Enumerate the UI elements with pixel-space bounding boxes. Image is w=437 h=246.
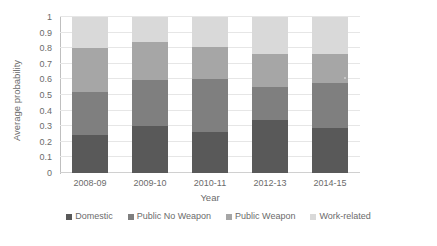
legend-swatch-icon: [310, 214, 316, 220]
y-axis-tick-label: 0: [47, 169, 52, 178]
bar-stack[interactable]: [132, 17, 168, 173]
legend-item[interactable]: Work-related: [310, 212, 370, 221]
bar-segment[interactable]: [72, 92, 108, 135]
x-axis-title: Year: [60, 192, 360, 203]
legend-swatch-icon: [66, 214, 72, 220]
bar-stack[interactable]: [192, 17, 228, 173]
y-axis-tick-label: 0.1: [39, 153, 52, 162]
y-axis-tick-label: 0.7: [39, 59, 52, 68]
legend-swatch-icon: [226, 214, 232, 220]
y-axis-tick-label: 0.5: [39, 91, 52, 100]
bar-segment[interactable]: [132, 42, 168, 80]
bar-segment[interactable]: [312, 17, 348, 54]
bar-segment[interactable]: [132, 126, 168, 173]
bar-segment[interactable]: [312, 54, 348, 83]
bar-segment[interactable]: [72, 48, 108, 92]
bar-segment[interactable]: [252, 17, 288, 54]
y-axis-tick-label: 1: [47, 13, 52, 22]
legend-item[interactable]: Public No Weapon: [128, 212, 211, 221]
bar-segment[interactable]: [72, 135, 108, 173]
x-axis-tick-label: 2014-15: [313, 178, 346, 188]
bar-stack[interactable]: [72, 17, 108, 173]
y-axis-tick-labels: 00.10.20.30.40.50.60.70.80.91: [0, 17, 56, 173]
bar-segment[interactable]: [192, 47, 228, 80]
x-axis-tick-labels: 2008-092009-102010-112012-132014-15: [60, 178, 360, 192]
chart-legend: DomesticPublic No WeaponPublic WeaponWor…: [0, 212, 437, 221]
bar-stack[interactable]: [252, 17, 288, 173]
y-axis-tick-label: 0.3: [39, 122, 52, 131]
y-axis-tick-label: 0.8: [39, 44, 52, 53]
x-axis-tick-label: 2009-10: [133, 178, 166, 188]
y-axis-tick-label: 0.6: [39, 75, 52, 84]
legend-label: Work-related: [319, 212, 370, 221]
bar-segment[interactable]: [192, 17, 228, 47]
legend-label: Domestic: [75, 212, 113, 221]
legend-label: Public No Weapon: [137, 212, 211, 221]
y-axis-tick-label: 0.4: [39, 106, 52, 115]
bar-segment[interactable]: [252, 87, 288, 120]
bar-segment[interactable]: [72, 17, 108, 48]
legend-swatch-icon: [128, 214, 134, 220]
plot-area: [60, 17, 360, 173]
stacked-bar-chart: Average probability 00.10.20.30.40.50.60…: [0, 0, 437, 246]
bar-segment[interactable]: [132, 80, 168, 126]
y-axis-tick-label: 0.2: [39, 137, 52, 146]
y-axis-tick-label: 0.9: [39, 28, 52, 37]
bar-segment[interactable]: [252, 120, 288, 173]
bar-stack[interactable]: [312, 17, 348, 173]
bar-segment[interactable]: [312, 128, 348, 173]
x-axis-tick-label: 2012-13: [253, 178, 286, 188]
bar-segment[interactable]: [312, 83, 348, 127]
bar-segment[interactable]: [192, 79, 228, 131]
legend-item[interactable]: Domestic: [66, 212, 113, 221]
bar-segment[interactable]: [192, 132, 228, 173]
legend-label: Public Weapon: [235, 212, 295, 221]
bar-segment[interactable]: [252, 54, 288, 88]
scan-speck: [344, 77, 346, 79]
bar-segment[interactable]: [132, 17, 168, 42]
x-axis-tick-label: 2008-09: [73, 178, 106, 188]
legend-item[interactable]: Public Weapon: [226, 212, 295, 221]
x-axis-tick-label: 2010-11: [194, 178, 226, 188]
